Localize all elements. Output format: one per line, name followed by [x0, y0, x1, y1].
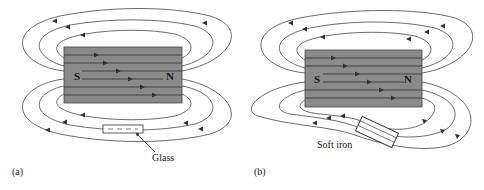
glass-label: Glass: [152, 152, 174, 163]
panel-a-caption: (a): [12, 166, 23, 178]
panel-a: S N Glass (a): [12, 9, 231, 179]
south-pole-label: S: [314, 73, 320, 85]
south-pole-label: S: [74, 70, 80, 82]
magnetic-field-figure: S N Glass (a): [0, 0, 484, 190]
glass-pointer-arrow: [137, 134, 155, 152]
panel-b-caption: (b): [254, 166, 266, 178]
arrow-icon: [45, 128, 50, 133]
arrow-icon: [80, 33, 85, 38]
soft-iron-label: Soft iron: [317, 139, 352, 150]
arrow-icon: [312, 121, 317, 126]
soft-iron-bar: [355, 116, 398, 147]
arrow-icon: [340, 114, 345, 119]
north-pole-label: N: [404, 73, 412, 85]
arrow-icon: [424, 30, 429, 35]
arrow-icon: [198, 127, 203, 132]
arrow-icon: [440, 24, 445, 29]
north-pole-label: N: [166, 70, 174, 82]
arrow-icon: [80, 113, 85, 118]
panel-b: S N Soft iron (b): [251, 11, 472, 179]
arrow-icon: [320, 35, 325, 40]
arrow-icon: [406, 37, 411, 42]
arrow-icon: [183, 121, 188, 126]
glass-slab: [103, 125, 143, 133]
arrow-icon: [52, 19, 57, 24]
arrow-icon: [202, 21, 207, 26]
arrow-icon: [302, 27, 307, 32]
arrow-icon: [455, 134, 460, 139]
